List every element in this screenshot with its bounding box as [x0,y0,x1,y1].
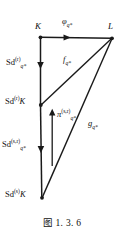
edge-label-pi: π(s,r)q* [57,110,76,119]
sd-r-K-tail: K [20,96,26,106]
phi-sub: q* [67,22,73,28]
vertex-label-K: K [35,22,41,31]
sd-s-K-base: Sd [5,189,14,199]
sd-sr-arrowhead [38,146,45,153]
vertex-dot-K [39,35,43,39]
edge-label-phi: φq* [62,17,72,26]
sd-r-arrowhead [37,62,44,69]
edge-phi-line [41,37,113,38]
phi-arrowhead [64,35,71,41]
sd-sr-q-sub: q* [20,145,26,151]
sd-sr-q-sup: (s,r) [11,138,20,144]
figure-container: K L φq* fq* gq* π(s,r)q* Sd(r)q* Sd(s,r)… [0,0,124,240]
sd-r-K-base: Sd [5,96,14,106]
edge-label-sd-sr-q: Sd(s,r)q* [2,140,26,149]
sd-r-q-sub: q* [21,63,27,69]
vertex-dot-sd-r-K [39,103,43,107]
pi-sub: q* [70,115,76,121]
vertex-label-sd-r-K: Sd(r)K [5,97,25,106]
g-sub: q* [92,124,98,130]
vertex-label-sd-s-K: Sd(s)K [5,190,26,199]
edge-label-sd-r-q: Sd(r)q* [6,58,26,67]
sd-sr-q-base: Sd [2,139,11,149]
sd-s-K-tail: K [20,189,26,199]
vertex-dot-sd-s-K [40,196,44,200]
pi-arrowhead [49,109,55,116]
sd-r-q-sup: (r) [15,56,21,62]
vertex-label-L: L [108,22,113,31]
edge-f-line [41,39,112,105]
vertex-dot-L [110,36,114,40]
edge-label-g: gq* [88,119,98,128]
sd-r-q-base: Sd [6,57,15,67]
edge-label-f: fq* [63,55,71,64]
figure-caption: 图 1. 3. 6 [0,215,124,229]
diagram-canvas [0,0,124,240]
f-sub: q* [65,60,71,66]
pi-sup: (s,r) [61,108,70,114]
